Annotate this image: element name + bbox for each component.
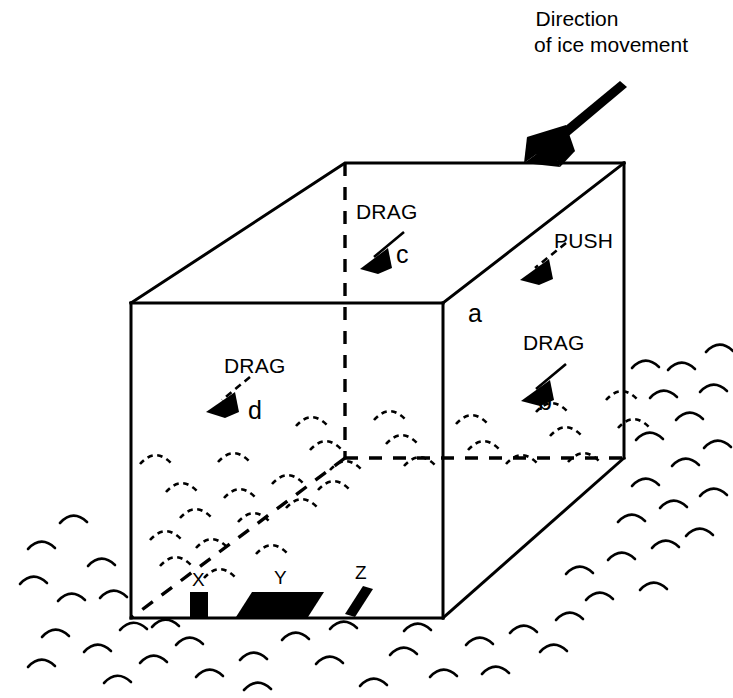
label-marker-z: Z	[355, 562, 367, 583]
label-drag-top: DRAG	[356, 200, 417, 223]
label-marker-x: X	[192, 569, 205, 590]
diagram-canvas: Direction of ice movement DRAG c PUSH a …	[0, 0, 733, 698]
obstacle-z-shape	[345, 586, 373, 617]
edge-top-back	[131, 163, 624, 303]
label-face-c: c	[396, 240, 409, 268]
bed-obstacle-markers	[190, 586, 373, 618]
label-marker-y: Y	[274, 567, 287, 588]
label-face-a: a	[468, 299, 482, 327]
label-face-b: b	[538, 387, 552, 415]
label-drag-front: DRAG	[224, 354, 285, 377]
ground-tufts-under-ice	[140, 391, 649, 578]
label-face-d: d	[248, 396, 262, 424]
title-line-1: Direction	[536, 7, 619, 30]
label-push-right: PUSH	[554, 229, 613, 252]
ground-tufts-outside	[20, 345, 733, 690]
force-arrow-d	[206, 377, 250, 418]
obstacle-x-shape	[190, 592, 208, 618]
title-line-2: of ice movement	[534, 33, 688, 56]
direction-of-ice-movement-arrow	[524, 81, 627, 167]
glacial-erosion-diagram: Direction of ice movement DRAG c PUSH a …	[0, 0, 733, 698]
obstacle-y-shape	[236, 592, 324, 617]
label-drag-right: DRAG	[523, 331, 584, 354]
